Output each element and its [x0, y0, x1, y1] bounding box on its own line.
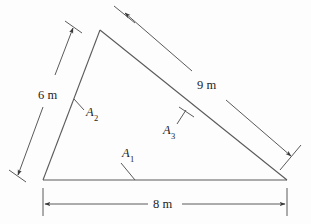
dimension-line-9m-lower — [226, 100, 291, 156]
dimension-label-9m: 9 m — [196, 79, 217, 92]
extension-tick-upper-left — [65, 21, 82, 33]
leader-tick-a3 — [179, 107, 194, 117]
angle-label-a1-subscript: 1 — [130, 154, 134, 164]
dimension-label-6m: 6 m — [37, 89, 58, 102]
angle-label-a3-subscript: 3 — [171, 131, 175, 141]
leader-line-a2 — [74, 99, 84, 110]
dimension-line-6m-lower — [18, 107, 43, 175]
angle-label-a1-base: A — [122, 146, 130, 160]
dimension-label-8m: 8 m — [152, 198, 173, 211]
angle-label-a2-subscript: 2 — [94, 113, 98, 123]
geometry-figure: 6 m 9 m 8 m A1 A2 A3 — [0, 0, 311, 224]
leader-line-a3 — [177, 110, 186, 124]
dimension-line-6m-upper — [55, 28, 73, 75]
angle-label-a1: A1 — [122, 147, 134, 162]
angle-label-a3-base: A — [163, 123, 171, 137]
extension-tick-lower-left — [9, 170, 26, 182]
leader-line-a1 — [121, 163, 135, 180]
angle-label-a2-base: A — [86, 105, 94, 119]
angle-label-a2: A2 — [86, 106, 98, 121]
dimension-line-9m-upper — [125, 13, 192, 71]
extension-tick-apex — [114, 6, 135, 23]
angle-label-a3: A3 — [163, 124, 175, 139]
triangle-diagram-canvas — [0, 0, 311, 224]
